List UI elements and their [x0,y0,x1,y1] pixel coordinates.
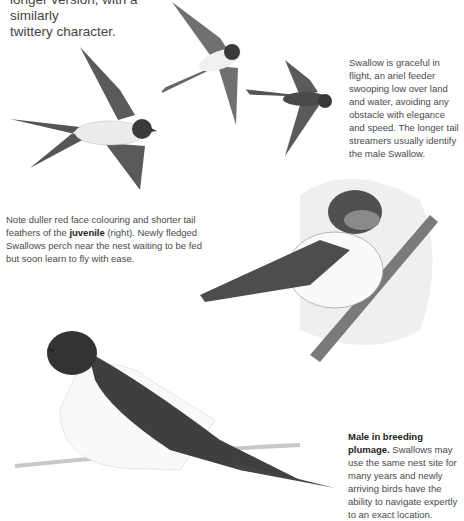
intro-line-2: twittery character. [10,24,180,40]
swallow-flying-left [10,47,157,190]
swallow-flying-right [247,60,332,156]
caption-juvenile: Note duller red face colouring and short… [6,213,206,265]
caption-juvenile-bold: juvenile [69,227,104,238]
juvenile-swallow-perched [200,179,438,362]
caption-flight: Swallow is graceful in flight, an ariel … [349,56,461,160]
intro-line-1: longer version, with a similarly [10,0,180,24]
caption-male-text: Swallows may use the same nest site for … [348,444,457,520]
intro-text: longer version, with a similarly twitter… [10,0,180,40]
caption-male: Male in breeding plumage. Swallows may u… [348,430,462,521]
male-swallow-on-wire [15,331,335,488]
